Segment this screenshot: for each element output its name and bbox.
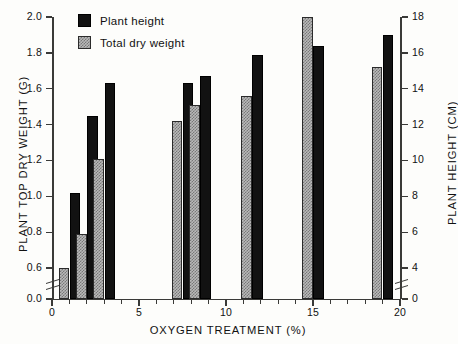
legend-swatch-plant-height — [78, 14, 91, 27]
axis-break-left — [46, 281, 59, 294]
y-axis-right-tick — [402, 88, 408, 89]
x-axis-tick-label: 15 — [293, 306, 333, 318]
y-axis-left-tick — [46, 267, 52, 268]
y-axis-right-tick-label: 0 — [412, 292, 418, 304]
y-axis-right-tick — [402, 52, 408, 53]
x-axis-minor-tick — [365, 300, 366, 304]
y-axis-right-tick — [402, 232, 408, 233]
x-axis-minor-tick — [156, 300, 157, 304]
x-axis-minor-tick — [104, 300, 105, 304]
legend-swatch-total-dry-weight — [78, 36, 91, 49]
y-axis-right-tick-label: 16 — [412, 46, 424, 58]
y-axis-right-tick — [402, 196, 408, 197]
bar-total-dry-weight — [76, 234, 87, 299]
legend-label-total-dry-weight: Total dry weight — [100, 37, 185, 49]
bar-total-dry-weight — [241, 96, 252, 299]
x-axis-minor-tick — [173, 300, 174, 304]
y-axis-left-tick-label: 0.6 — [27, 261, 42, 273]
x-axis-minor-tick — [191, 300, 192, 304]
y-axis-left-title: PLANT TOP DRY WEIGHT (G) — [17, 76, 29, 252]
legend-item-total-dry-weight: Total dry weight — [78, 36, 185, 49]
x-axis-minor-tick — [69, 300, 70, 304]
x-axis-tick-label: 5 — [119, 306, 159, 318]
bar-total-dry-weight — [372, 67, 383, 299]
y-axis-left-tick-label: 1.4 — [27, 118, 42, 130]
y-axis-left-tick-label: 1.8 — [27, 46, 42, 58]
x-axis-minor-tick — [86, 300, 87, 304]
bar-plant-height — [313, 46, 324, 299]
bar-total-dry-weight — [302, 17, 313, 299]
y-axis-right-tick-label: 6 — [412, 225, 418, 237]
y-axis-left-tick — [46, 52, 52, 53]
y-axis-left-tick-label: 0.8 — [27, 225, 42, 237]
y-axis-right-tick-label: 4 — [412, 261, 418, 273]
y-axis-right-tick — [402, 124, 408, 125]
y-axis-right-tick-label: 10 — [412, 153, 424, 165]
x-axis-minor-tick — [260, 300, 261, 304]
y-axis-right-tick — [402, 267, 408, 268]
y-axis-right-tick-label: 14 — [412, 82, 424, 94]
x-axis-minor-tick — [295, 300, 296, 304]
bar-plant-height — [383, 35, 394, 299]
axis-break-right — [395, 281, 408, 294]
bar-plant-height — [252, 55, 263, 299]
y-axis-left-tick — [46, 16, 52, 17]
y-axis-left-tick-label: 0.0 — [27, 292, 42, 304]
bar-total-dry-weight — [59, 268, 70, 299]
y-axis-left-tick-label: 1.2 — [27, 153, 42, 165]
chart-legend: Plant height Total dry weight — [78, 14, 185, 58]
y-axis-right-tick-label: 18 — [412, 10, 424, 22]
x-axis-tick-label: 0 — [32, 306, 72, 318]
x-axis-title: OXYGEN TREATMENT (%) — [0, 324, 456, 336]
bar-total-dry-weight — [189, 105, 200, 299]
y-axis-right-tick — [402, 160, 408, 161]
y-axis-left-tick — [46, 232, 52, 233]
x-axis-minor-tick — [330, 300, 331, 304]
x-axis-tick-label: 10 — [206, 306, 246, 318]
x-axis-tick-label: 20 — [380, 306, 420, 318]
y-axis-right-tick — [402, 16, 408, 17]
bar-total-dry-weight — [172, 121, 183, 299]
x-axis-minor-tick — [243, 300, 244, 304]
bar-plant-height — [200, 76, 211, 299]
y-axis-right-title: PLANT HEIGHT (CM) — [446, 101, 458, 225]
y-axis-right-tick-label: 8 — [412, 189, 418, 201]
y-axis-left-tick — [46, 124, 52, 125]
legend-label-plant-height: Plant height — [100, 15, 164, 27]
x-axis-minor-tick — [278, 300, 279, 304]
y-axis-left-tick — [46, 196, 52, 197]
y-axis-right-line — [400, 17, 402, 299]
x-axis-minor-tick — [121, 300, 122, 304]
y-axis-left-tick-label: 2.0 — [27, 10, 42, 22]
y-axis-right-tick-label: 12 — [412, 118, 424, 130]
x-axis-minor-tick — [347, 300, 348, 304]
y-axis-left-line — [52, 17, 54, 299]
y-axis-left-tick-label: 1.0 — [27, 189, 42, 201]
y-axis-right-tick — [402, 298, 408, 299]
legend-item-plant-height: Plant height — [78, 14, 185, 27]
y-axis-left-tick — [46, 160, 52, 161]
bar-total-dry-weight — [93, 159, 104, 299]
y-axis-left-tick-label: 1.6 — [27, 82, 42, 94]
x-axis-minor-tick — [208, 300, 209, 304]
x-axis-minor-tick — [382, 300, 383, 304]
y-axis-left-tick — [46, 88, 52, 89]
bar-plant-height — [105, 83, 116, 299]
